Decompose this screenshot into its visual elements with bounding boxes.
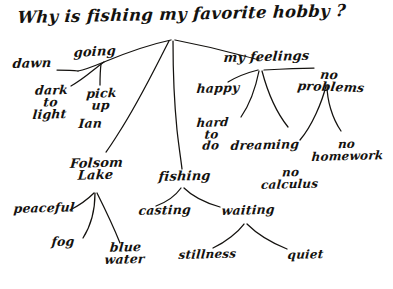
- node-peaceful: peaceful: [13, 201, 75, 215]
- node-fog: fog: [51, 235, 75, 248]
- node-no-problems: no problems: [297, 68, 360, 94]
- branch-waiting-stillness: [213, 224, 244, 248]
- node-waiting: waiting: [221, 204, 275, 217]
- node-hard-to-do: hard to do: [190, 117, 233, 153]
- branch-going-pickup: [100, 64, 101, 85]
- node-stillness: stillness: [178, 248, 237, 261]
- mind-map-canvas: Why is fishing my favorite hobby ? dawn …: [0, 0, 393, 289]
- branch-myfeelings-dreaming: [262, 71, 288, 127]
- branch-noproblems-nocalculus: [300, 86, 326, 140]
- node-ian: Ian: [78, 117, 103, 130]
- node-going: going: [73, 45, 116, 60]
- node-dawn: dawn: [12, 57, 52, 71]
- node-pick-up: pick up: [81, 87, 121, 112]
- node-no-homework: no homework: [311, 138, 381, 163]
- node-my-feelings: my feelings: [223, 50, 310, 65]
- node-folsom-lake: Folsom Lake: [64, 156, 128, 183]
- node-dreaming: dreaming: [230, 138, 300, 152]
- node-happy: happy: [196, 82, 240, 95]
- node-blue-water: blue water: [102, 241, 148, 266]
- branch-folsom-fog: [83, 193, 95, 238]
- node-casting: casting: [138, 204, 191, 217]
- branch-going-dawn: [57, 70, 78, 71]
- page-title: Why is fishing my favorite hobby ?: [17, 3, 347, 26]
- node-quiet: quiet: [287, 249, 324, 261]
- branch-myfeelings-hard: [241, 71, 259, 117]
- branch-waiting-quiet: [247, 224, 287, 249]
- node-fishing: fishing: [158, 170, 211, 184]
- branch-title-fishing: [173, 41, 182, 169]
- node-no-calculus: no calculus: [260, 166, 320, 191]
- branch-going-dark: [71, 62, 104, 86]
- branch-folsom-bluewater: [97, 193, 120, 243]
- node-dark-to-light: dark to light: [25, 84, 76, 121]
